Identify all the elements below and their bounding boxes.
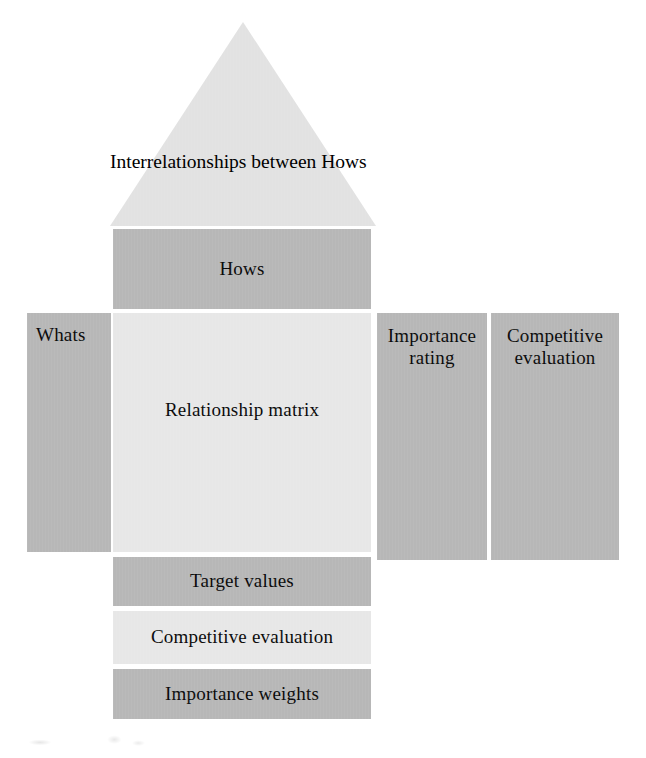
roof-label: Interrelationships between Hows xyxy=(110,151,376,173)
whats-block: Whats xyxy=(27,313,111,552)
relationship-matrix-label: Relationship matrix xyxy=(165,399,319,421)
competitive-evaluation-right-label: Competitive evaluation xyxy=(507,325,603,370)
importance-rating-block: Importance rating xyxy=(377,313,487,560)
competitive-evaluation-right-block: Competitive evaluation xyxy=(491,313,619,560)
target-values-block: Target values xyxy=(113,557,371,606)
hows-label: Hows xyxy=(219,258,264,280)
roof-interrelationships-block: Interrelationships between Hows xyxy=(110,22,376,226)
importance-rating-label: Importance rating xyxy=(388,325,477,370)
roof-triangle-shape xyxy=(110,22,376,226)
competitive-evaluation-bottom-block: Competitive evaluation xyxy=(113,611,371,664)
scan-artifact xyxy=(28,734,148,748)
house-of-quality-diagram: Interrelationships between Hows Hows Wha… xyxy=(0,0,646,758)
relationship-matrix-block: Relationship matrix xyxy=(113,313,371,552)
hows-block: Hows xyxy=(113,229,371,309)
whats-label: Whats xyxy=(36,324,86,346)
target-values-label: Target values xyxy=(190,570,294,592)
importance-weights-block: Importance weights xyxy=(113,669,371,719)
competitive-evaluation-bottom-label: Competitive evaluation xyxy=(151,626,333,648)
importance-weights-label: Importance weights xyxy=(165,683,319,705)
